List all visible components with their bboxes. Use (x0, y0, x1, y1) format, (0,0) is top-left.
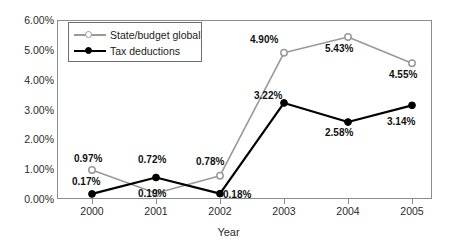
x-tick-mark (284, 199, 285, 204)
data-value-label: 0.19% (138, 189, 166, 199)
x-tick-label: 2002 (198, 206, 242, 217)
x-tick-label: 2004 (326, 206, 370, 217)
data-value-label: 4.55% (389, 70, 417, 80)
y-tick-label: 4.00% (8, 75, 54, 85)
data-value-label: 0.18% (223, 190, 251, 200)
x-tick-label: 2001 (134, 206, 178, 217)
y-tick-label: 2.00% (8, 134, 54, 144)
legend-label-state-budget-global: State/budget global (110, 29, 201, 41)
data-value-label: 3.14% (387, 117, 415, 127)
y-tick-label: 0.00% (8, 194, 54, 204)
data-value-label: 4.90% (250, 35, 278, 45)
legend-label-tax-deductions: Tax deductions (110, 45, 180, 57)
data-value-label: 0.78% (196, 157, 224, 167)
legend-swatch-filled-circle-icon (74, 44, 106, 58)
x-tick-label: 2005 (390, 206, 434, 217)
x-tick-label: 2003 (262, 206, 306, 217)
x-tick-label: 2000 (70, 206, 114, 217)
data-value-label: 3.22% (254, 91, 282, 101)
y-tick-label: 5.00% (8, 45, 54, 55)
y-tick-label: 1.00% (8, 164, 54, 174)
data-value-label: 5.43% (325, 44, 353, 54)
x-axis-title: Year (0, 226, 457, 238)
y-axis: 0.00%1.00%2.00%3.00%4.00%5.00%6.00% (0, 0, 54, 246)
x-tick-mark (348, 199, 349, 204)
data-value-label: 0.17% (72, 177, 100, 187)
legend-swatch-open-circle-icon (74, 28, 106, 42)
y-tick-label: 3.00% (8, 105, 54, 115)
chart-legend: State/budget global Tax deductions (68, 22, 202, 62)
data-value-label: 0.72% (138, 155, 166, 165)
y-tick-label: 6.00% (8, 15, 54, 25)
data-value-label: 2.58% (325, 128, 353, 138)
legend-item-state-budget-global: State/budget global (74, 27, 196, 43)
x-tick-mark (220, 199, 221, 204)
data-value-label: 0.97% (74, 154, 102, 164)
x-tick-mark (92, 199, 93, 204)
x-tick-mark (156, 199, 157, 204)
x-tick-mark (412, 199, 413, 204)
legend-item-tax-deductions: Tax deductions (74, 43, 196, 59)
line-chart: 0.00%1.00%2.00%3.00%4.00%5.00%6.00% 2000… (0, 0, 457, 246)
